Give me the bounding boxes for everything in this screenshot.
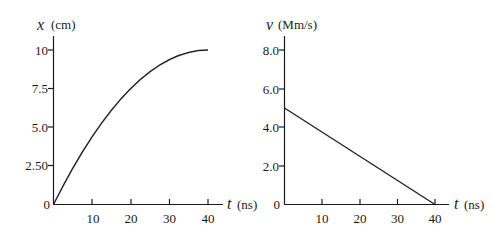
y-axis-variable: v <box>266 16 274 33</box>
velocity-chart: v (Mm/s) 0 2.0 4.0 6.0 8.0 10 20 30 40 t… <box>263 16 484 226</box>
y-axis-unit: (cm) <box>51 17 76 32</box>
figure: x (cm) 0 2.50 5.0 7.5 10 10 20 30 40 t (… <box>0 0 503 233</box>
x-axis-variable: t <box>227 195 232 212</box>
x-axis-variable: t <box>454 195 459 212</box>
x-tick-label: 20 <box>125 211 138 226</box>
position-curve <box>54 50 209 205</box>
y-tick-label: 7.5 <box>32 81 48 96</box>
y-tick-label: 0 <box>274 197 281 212</box>
x-axis-unit: (ns) <box>237 197 257 212</box>
y-tick-label: 6.0 <box>263 82 279 97</box>
x-axis-unit: (ns) <box>464 197 484 212</box>
y-axis-unit: (Mm/s) <box>278 17 317 32</box>
x-tick-label: 40 <box>429 211 442 226</box>
x-ticks <box>92 199 208 205</box>
position-chart: x (cm) 0 2.50 5.0 7.5 10 10 20 30 40 t (… <box>25 16 257 226</box>
x-tick-label: 30 <box>163 211 176 226</box>
x-tick-label: 10 <box>87 211 100 226</box>
y-tick-label: 10 <box>35 43 48 58</box>
y-tick-label: 2.0 <box>263 159 279 174</box>
x-tick-label: 30 <box>391 211 404 226</box>
velocity-line <box>285 108 436 205</box>
y-axis-variable: x <box>36 16 44 33</box>
x-tick-label: 40 <box>202 211 215 226</box>
x-tick-label: 20 <box>354 211 367 226</box>
y-tick-label: 5.0 <box>32 120 48 135</box>
y-tick-label: 8.0 <box>263 43 279 58</box>
y-ticks <box>279 50 285 166</box>
y-tick-label: 2.50 <box>25 158 48 173</box>
y-tick-label: 4.0 <box>263 120 279 135</box>
y-tick-label: 0 <box>44 197 51 212</box>
x-ticks <box>322 199 435 205</box>
y-ticks <box>48 50 54 166</box>
x-tick-label: 10 <box>316 211 329 226</box>
